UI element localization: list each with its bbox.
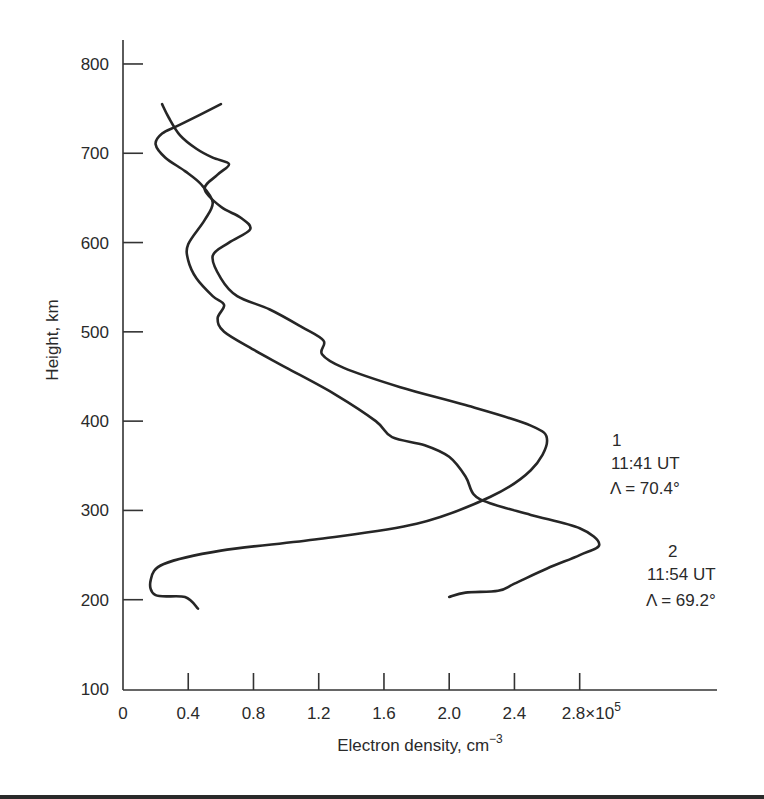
- curve-1-time: 11:41 UT: [611, 454, 680, 473]
- x-tick-label: 1.2: [307, 704, 331, 723]
- page-bottom-rule: [0, 795, 764, 799]
- y-tick-label: 100: [81, 680, 109, 699]
- curve-2: [156, 104, 600, 597]
- chart: 100200300400500600700800 00.40.81.21.62.…: [0, 0, 764, 799]
- x-tick-label: 2.8×105: [562, 700, 621, 723]
- y-tick-label: 400: [81, 412, 109, 431]
- curve-2-time: 11:54 UT: [647, 565, 716, 584]
- y-tick-label: 200: [81, 591, 109, 610]
- curve-1: [150, 104, 547, 608]
- y-axis-title: Height, km: [43, 299, 62, 380]
- x-axis-title: Electron density, cm−3: [337, 732, 503, 755]
- curve-2-annotation: 2 11:54 UT Λ = 69.2°: [646, 542, 716, 610]
- curve-1-label: 1: [612, 431, 621, 450]
- x-axis-title-main: Electron density, cm: [337, 736, 489, 755]
- curve-1-annotation: 1 11:41 UT Λ = 70.4°: [610, 431, 680, 498]
- y-tick-label: 500: [81, 323, 109, 342]
- y-tick-label: 300: [81, 501, 109, 520]
- x-tick-label: 2.0: [437, 704, 461, 723]
- x-tick-label: 0.4: [176, 704, 200, 723]
- y-tick-label: 700: [81, 144, 109, 163]
- x-ticks: 00.40.81.21.62.02.42.8×105: [118, 673, 621, 723]
- curve-2-label: 2: [668, 542, 677, 561]
- curve-1-latitude: Λ = 70.4°: [610, 479, 680, 498]
- y-tick-label: 800: [81, 55, 109, 74]
- y-ticks: 100200300400500600700800: [81, 55, 143, 699]
- curve-2-latitude: Λ = 69.2°: [646, 591, 716, 610]
- x-tick-label: 0.8: [242, 704, 266, 723]
- x-axis-title-sup: −3: [489, 732, 503, 746]
- x-tick-label: 0: [118, 704, 127, 723]
- x-tick-label: 2.4: [503, 704, 527, 723]
- y-tick-label: 600: [81, 234, 109, 253]
- x-tick-label: 1.6: [372, 704, 396, 723]
